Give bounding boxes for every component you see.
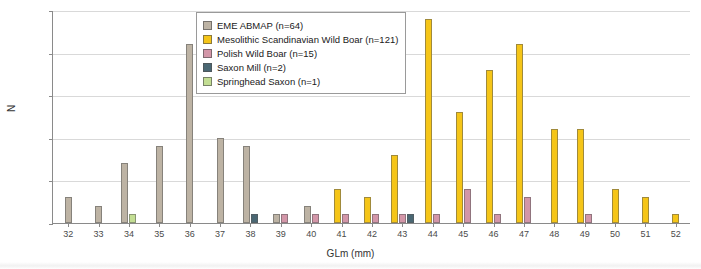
legend-item: Mesolithic Scandinavian Wild Boar (n=121… (203, 32, 398, 46)
bar (281, 214, 288, 223)
x-tick-mark (494, 223, 495, 227)
x-tick-mark (585, 223, 586, 227)
x-tick-mark (190, 223, 191, 227)
bar (642, 197, 649, 223)
bar (524, 197, 531, 223)
legend-swatch-icon (203, 21, 212, 30)
y-axis-title: N (6, 105, 17, 112)
x-tick-mark (615, 223, 616, 227)
bar (486, 70, 493, 223)
bar-group (661, 11, 691, 223)
x-tick-mark (311, 223, 312, 227)
bar (433, 214, 440, 223)
x-tick-mark (554, 223, 555, 227)
bar (334, 189, 341, 223)
bar-group (509, 11, 539, 223)
x-tick-mark (676, 223, 677, 227)
legend-item: Polish Wild Boar (n=15) (203, 46, 398, 60)
bar-group (53, 11, 83, 223)
bar (425, 19, 432, 223)
bar (243, 146, 250, 223)
bar-group (569, 11, 599, 223)
bar-group (630, 11, 660, 223)
legend-item-label: Springhead Saxon (n=1) (217, 76, 320, 87)
bar (129, 214, 136, 223)
bar (407, 214, 414, 223)
x-tick-mark (220, 223, 221, 227)
bar (304, 206, 311, 223)
bar (516, 44, 523, 223)
bar (612, 189, 619, 223)
bar (456, 112, 463, 223)
x-tick-mark (159, 223, 160, 227)
bar-group (144, 11, 174, 223)
legend-swatch-icon (203, 77, 212, 86)
legend-swatch-icon (203, 63, 212, 72)
x-tick-label: 52 (656, 229, 696, 239)
bar-group (539, 11, 569, 223)
bar (95, 206, 102, 223)
bar (494, 214, 501, 223)
histogram-chart: N 05101520253233343536373839404142434445… (0, 0, 701, 269)
x-tick-mark (463, 223, 464, 227)
legend-item-label: EME ABMAP (n=64) (217, 20, 303, 31)
bar (372, 214, 379, 223)
bar (251, 214, 258, 223)
x-tick-mark (68, 223, 69, 227)
chart-legend: EME ABMAP (n=64)Mesolithic Scandinavian … (196, 12, 406, 94)
bar-group (418, 11, 448, 223)
bar (312, 214, 319, 223)
bar (399, 214, 406, 223)
bar (342, 214, 349, 223)
bar (364, 197, 371, 223)
bar (65, 197, 72, 223)
bar (217, 138, 224, 223)
legend-item-label: Mesolithic Scandinavian Wild Boar (n=121… (217, 34, 398, 45)
x-tick-mark (342, 223, 343, 227)
bar (121, 163, 128, 223)
bar (672, 214, 679, 223)
bar-group (600, 11, 630, 223)
y-tick-mark (49, 224, 53, 225)
page-fold-artifact (0, 262, 701, 269)
x-tick-mark (281, 223, 282, 227)
bar (577, 129, 584, 223)
bar-group (448, 11, 478, 223)
bar-group (114, 11, 144, 223)
bar (156, 146, 163, 223)
x-axis-title: GLm (mm) (0, 248, 701, 259)
x-tick-mark (99, 223, 100, 227)
legend-swatch-icon (203, 35, 212, 44)
bar (186, 44, 193, 223)
legend-item: EME ABMAP (n=64) (203, 18, 398, 32)
bar (273, 214, 280, 223)
legend-item: Saxon Mill (n=2) (203, 60, 398, 74)
legend-item-label: Saxon Mill (n=2) (217, 62, 286, 73)
x-tick-mark (129, 223, 130, 227)
x-tick-mark (372, 223, 373, 227)
bar-group (478, 11, 508, 223)
x-tick-mark (433, 223, 434, 227)
bar (391, 155, 398, 223)
bar (585, 214, 592, 223)
x-tick-mark (402, 223, 403, 227)
x-tick-mark (250, 223, 251, 227)
bar (464, 189, 471, 223)
legend-item-label: Polish Wild Boar (n=15) (217, 48, 317, 59)
legend-swatch-icon (203, 49, 212, 58)
bar (551, 129, 558, 223)
x-tick-mark (645, 223, 646, 227)
legend-item: Springhead Saxon (n=1) (203, 74, 398, 88)
x-tick-mark (524, 223, 525, 227)
bar-group (83, 11, 113, 223)
